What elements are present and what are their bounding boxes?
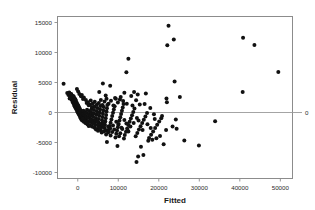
scatter-point [96,120,100,124]
scatter-point [149,126,153,130]
scatter-point [105,97,109,101]
scatter-point [182,138,186,142]
scatter-point [117,134,121,138]
scatter-point [164,128,168,132]
y-tick-label: 15000 [35,19,53,26]
scatter-point [241,90,245,94]
x-tick-label: 10000 [110,184,128,191]
scatter-point [105,140,109,144]
scatter-point [111,104,115,108]
scatter-point [252,43,256,47]
scatter-point [101,81,105,85]
y-axis-title: Residual [10,81,19,114]
scatter-point [99,98,103,102]
scatter-point [102,125,106,129]
scatter-point [120,126,124,130]
scatter-point [144,92,148,96]
scatter-point [149,133,153,137]
scatter-point [145,122,149,126]
scatter-point [125,102,129,106]
scatter-point [102,121,106,125]
x-tick-label: 30000 [191,184,209,191]
scatter-point [126,57,130,61]
scatter-point [148,106,152,110]
scatter-point [241,36,245,40]
scatter-point [135,160,139,164]
x-tick-label: 0 [76,184,80,191]
y-tick-label: 5000 [38,79,52,86]
scatter-point [146,139,150,143]
scatter-point [112,128,116,132]
scatter-point [100,103,104,107]
scatter-point [69,92,73,96]
residual-plot-figure: 01000020000300004000050000 -10000-500005… [0,0,315,210]
scatter-point [165,43,169,47]
x-tick-label: 20000 [150,184,168,191]
scatter-point [141,128,145,132]
y-tick-label: 0 [49,109,53,116]
scatter-point [62,82,66,86]
scatter-point [213,119,217,123]
scatter-point [172,38,176,42]
scatter-point [113,96,117,100]
scatter-point [164,96,168,100]
scatter-point [157,120,161,124]
y-tick-label: -5000 [36,139,52,146]
scatter-point [139,145,143,149]
scatter-point [153,126,157,130]
y-tick-label: 10000 [35,49,53,56]
scatter-point [97,90,101,94]
scatter-point [276,70,280,74]
scatter-point [174,117,178,121]
scatter-point [129,94,133,98]
x-axis-title: Fitted [164,196,186,205]
scatter-point [132,90,136,94]
scatter-point [171,125,175,129]
scatter-point [173,80,177,84]
scatter-point [115,144,119,148]
scatter-point [130,104,134,108]
reference-line-label: 0 [305,109,309,116]
scatter-point [109,134,113,138]
scatter-point [122,137,126,141]
y-tick-label: -10000 [33,169,53,176]
scatter-point [151,129,155,133]
scatter-point [150,138,154,142]
scatter-point [121,99,125,103]
scatter-point [154,136,158,140]
scatter-point [75,87,79,91]
x-tick-label: 50000 [272,184,290,191]
x-tick-label: 40000 [231,184,249,191]
scatter-point [167,24,171,28]
scatter-point [134,98,138,102]
scatter-point [145,111,149,115]
scatter-point [108,84,112,88]
scatter-point [136,93,140,97]
scatter-point [165,100,169,104]
scatter-point [87,124,91,128]
scatter-point [178,95,182,99]
scatter-point [153,117,157,121]
scatter-point [155,123,159,127]
scatter-point [162,142,166,146]
scatter-point [124,70,128,74]
scatter-point [126,128,130,132]
scatter-point [136,155,140,159]
scatter-point [87,103,91,107]
scatter-point [122,118,126,122]
scatter-point [109,99,113,103]
scatter-point [132,121,136,125]
scatter-point [141,153,145,157]
scatter-point [197,144,201,148]
scatter-point [128,125,132,129]
scatter-point [116,123,120,127]
scatter-point [124,122,128,126]
scatter-point [113,135,117,139]
scatter-point [135,116,139,120]
scatter-point [158,134,162,138]
scatter-point [175,127,179,131]
scatter-point [98,126,102,130]
scatter-point [107,129,111,133]
scatter-point [152,112,156,116]
scatter-point [160,114,164,118]
